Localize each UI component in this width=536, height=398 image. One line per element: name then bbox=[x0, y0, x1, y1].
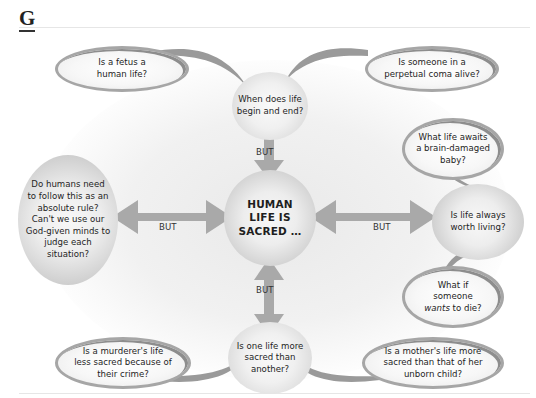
bubble-wants-to-die: What if someone wants to die? bbox=[402, 266, 504, 328]
bubble-right-lower-line-2: someone bbox=[424, 291, 481, 303]
node-left-line-3: absolute rule? bbox=[26, 203, 110, 215]
bubble-bottom-left-line-2: less sacred because of bbox=[74, 357, 172, 369]
node-bottom-line-3: another? bbox=[237, 364, 304, 376]
center-line-1: HUMAN bbox=[238, 198, 301, 212]
bubble-bottom-right-line-1: Is a mother's life more bbox=[383, 346, 482, 358]
bubble-bottom-left-line-3: their crime? bbox=[74, 369, 172, 381]
node-top-line-2: begin and end? bbox=[237, 106, 303, 118]
node-left-line-7: situation? bbox=[26, 249, 110, 261]
but-label-right: BUT bbox=[373, 222, 390, 232]
center-line-2: LIFE IS bbox=[238, 211, 301, 225]
node-left-line-2: to follow this as an bbox=[26, 191, 110, 203]
bubble-top-left-line-2: human life? bbox=[97, 69, 147, 81]
speech-tail-top-right bbox=[286, 48, 368, 80]
node-right-line-1: Is life always bbox=[450, 210, 505, 222]
node-absolute-rule: Do humans need to follow this as an abso… bbox=[18, 155, 118, 285]
bubble-mothers-life: Is a mother's life more sacred than that… bbox=[362, 337, 504, 389]
bubble-perpetual-coma: Is someone in a perpetual coma alive? bbox=[365, 46, 499, 92]
but-label-top: BUT bbox=[256, 147, 273, 157]
bubble-top-right-line-1: Is someone in a bbox=[384, 57, 480, 69]
node-is-life-worth-living: Is life always worth living? bbox=[432, 184, 524, 260]
bubble-right-upper-line-3: baby? bbox=[416, 155, 490, 167]
bubble-brain-damaged-baby: What life awaits a brain-damaged baby? bbox=[402, 118, 504, 180]
node-bottom-line-2: sacred than bbox=[237, 352, 304, 364]
bubble-right-lower-line-3-rest: to die? bbox=[450, 303, 482, 313]
bubble-murderers-life: Is a murderer's life less sacred because… bbox=[55, 337, 191, 389]
node-top-line-1: When does life bbox=[237, 94, 303, 106]
bubble-right-lower-line-1: What if bbox=[424, 280, 481, 292]
bubble-bottom-right-line-3: unborn child? bbox=[383, 369, 482, 381]
bubble-fetus-human-life: Is a fetus a human life? bbox=[55, 46, 189, 92]
node-left-line-1: Do humans need bbox=[26, 179, 110, 191]
bubble-bottom-left-line-1: Is a murderer's life bbox=[74, 346, 172, 358]
node-when-does-life-begin: When does life begin and end? bbox=[232, 72, 308, 140]
center-node-human-life-is-sacred: HUMAN LIFE IS SACRED … bbox=[224, 170, 316, 266]
bubble-top-right-line-2: perpetual coma alive? bbox=[384, 69, 480, 81]
but-label-bottom: BUT bbox=[256, 285, 273, 295]
bubble-right-upper-line-2: a brain-damaged bbox=[416, 143, 490, 155]
node-left-line-4: Can't we use our bbox=[26, 214, 110, 226]
center-line-3: SACRED … bbox=[238, 225, 301, 239]
node-right-line-2: worth living? bbox=[450, 222, 505, 234]
node-left-line-5: God-given minds to bbox=[26, 226, 110, 238]
node-bottom-line-1: Is one life more bbox=[237, 341, 304, 353]
emphasis-wants: wants bbox=[424, 303, 450, 313]
but-label-left: BUT bbox=[159, 222, 176, 232]
node-left-line-6: judge each bbox=[26, 237, 110, 249]
bubble-top-left-line-1: Is a fetus a bbox=[97, 57, 147, 69]
bubble-bottom-right-line-2: sacred than that of her bbox=[383, 357, 482, 369]
bubble-right-lower-line-3: wants to die? bbox=[424, 303, 481, 315]
bubble-right-upper-line-1: What life awaits bbox=[416, 132, 490, 144]
node-is-one-life-more-sacred: Is one life more sacred than another? bbox=[228, 322, 312, 394]
